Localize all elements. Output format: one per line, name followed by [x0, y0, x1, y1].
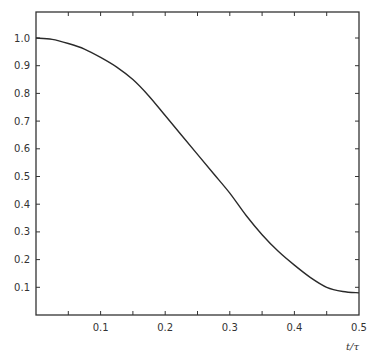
y-tick-label: 0.4 — [14, 199, 30, 210]
y-tick-label: 0.2 — [14, 254, 30, 265]
y-tick-label: 0.3 — [14, 226, 30, 237]
x-tick-label: 0.5 — [351, 322, 367, 333]
x-tick-label: 0.1 — [93, 322, 109, 333]
y-tick-label: 0.8 — [14, 88, 30, 99]
y-tick-label: 0.1 — [14, 282, 30, 293]
y-tick-label: 1.0 — [14, 33, 30, 44]
y-tick-label: 0.5 — [14, 171, 30, 182]
x-tick-label: 0.4 — [286, 322, 302, 333]
y-tick-label: 0.6 — [14, 143, 30, 154]
line-chart: 0.10.20.30.40.50.60.70.80.91.0 0.10.20.3… — [0, 0, 373, 356]
y-axis-ticks: 0.10.20.30.40.50.60.70.80.91.0 — [14, 33, 359, 293]
y-tick-label: 0.9 — [14, 60, 30, 71]
x-axis-label: t/τ — [346, 341, 359, 352]
data-curve — [36, 38, 359, 293]
y-tick-label: 0.7 — [14, 116, 30, 127]
plot-frame — [36, 12, 359, 315]
x-tick-label: 0.3 — [222, 322, 238, 333]
x-tick-label: 0.2 — [157, 322, 173, 333]
